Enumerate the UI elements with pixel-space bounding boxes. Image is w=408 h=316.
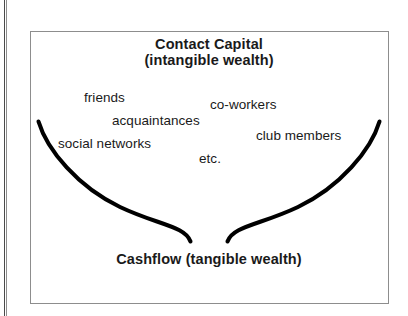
footer-line-2: (tangible wealth) (186, 251, 302, 267)
node-social-networks-label: social networks (58, 136, 151, 151)
node-acquaintances: acquaintances (112, 113, 200, 128)
node-club-members: club members (256, 128, 341, 143)
node-social-networks: social networks (58, 136, 151, 151)
node-etc: etc. (199, 151, 221, 166)
node-acquaintances-label: acquaintances (112, 113, 200, 128)
node-friends: friends (84, 90, 125, 105)
heading-contact-capital: Contact Capital (intangible wealth) (114, 36, 304, 68)
scan-edge-artifact-inner (4, 0, 5, 316)
scan-edge-artifact-outer (6, 0, 7, 316)
node-etc-label: etc. (199, 151, 221, 166)
footer-line-1: Cashflow (116, 251, 181, 267)
footer-cashflow: Cashflow (tangible wealth) (114, 251, 304, 267)
node-friends-label: friends (84, 90, 125, 105)
node-co-workers: co-workers (210, 97, 277, 112)
heading-line-1: Contact Capital (155, 36, 263, 52)
node-co-workers-label: co-workers (210, 97, 277, 112)
figure-canvas: Contact Capital (intangible wealth) frie… (0, 0, 408, 316)
heading-line-2: (intangible wealth) (114, 52, 304, 68)
node-club-members-label: club members (256, 128, 341, 143)
